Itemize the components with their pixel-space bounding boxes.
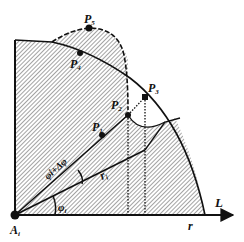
label-r-end: r — [188, 219, 193, 233]
geometry-diagram: P5 P4 P3 P2 P1 ri φi+Δφ φi Ai r L — [0, 0, 244, 242]
label-p5: P5 — [84, 12, 95, 27]
label-axis-l: L — [214, 195, 223, 210]
diagram-stage: P5 P4 P3 P2 P1 ri φi+Δφ φi Ai r L — [0, 0, 244, 242]
label-origin: Ai — [9, 223, 20, 238]
hatched-region — [15, 28, 205, 215]
label-p3: P3 — [148, 81, 159, 96]
point-p4 — [77, 50, 83, 56]
origin-point — [11, 211, 20, 220]
point-p2 — [125, 112, 131, 118]
